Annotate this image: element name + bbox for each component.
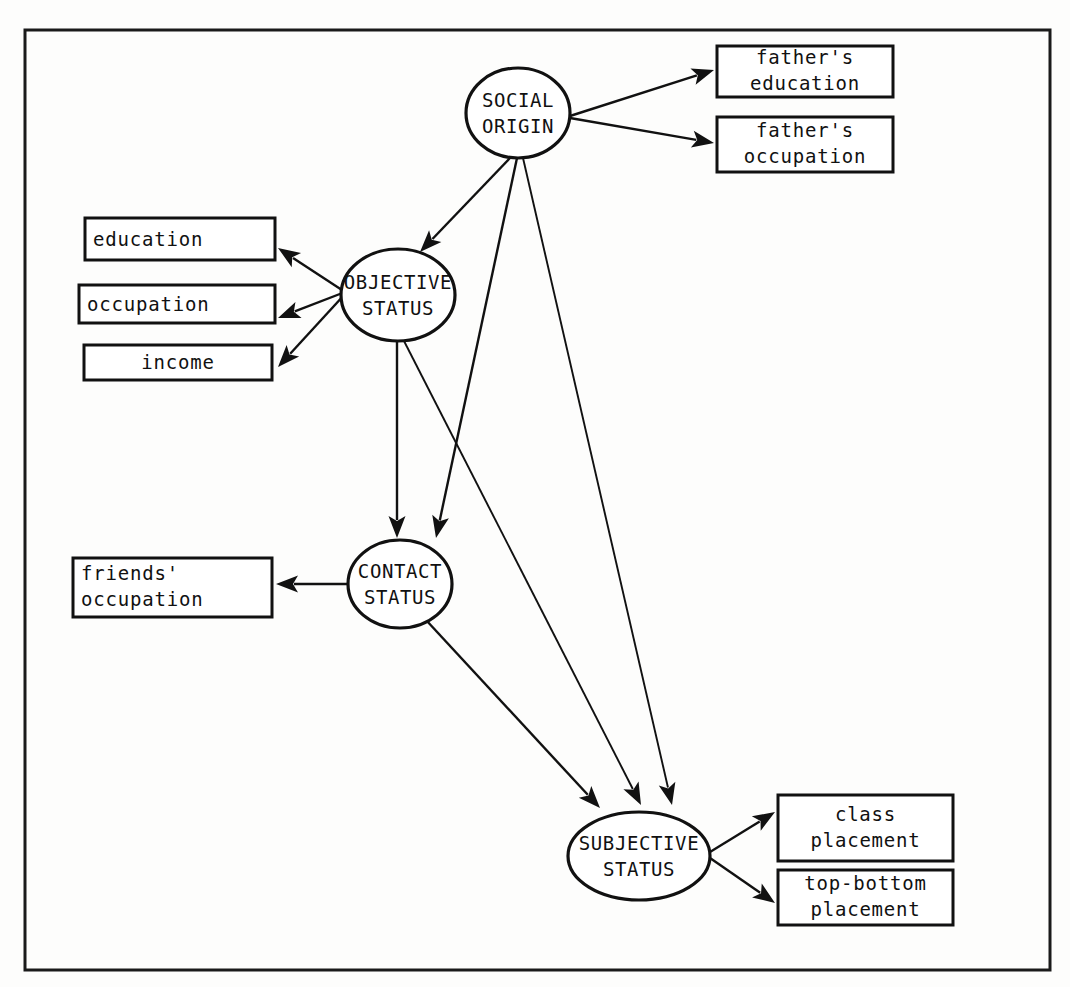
edge-line	[440, 158, 517, 520]
edge-line	[426, 620, 588, 795]
edge-line	[710, 858, 760, 893]
indicator-label-line2: placement	[810, 829, 920, 851]
indicator-fathers-education[interactable]: father'seducation	[717, 46, 893, 97]
indicator-education[interactable]: education	[85, 218, 275, 260]
construct-label-line1: SOCIAL	[482, 89, 554, 111]
edge-line	[432, 158, 510, 239]
construct-ellipse[interactable]	[466, 68, 570, 158]
edge-line	[570, 118, 696, 140]
indicator-friends-occupation[interactable]: friends'occupation	[73, 558, 272, 617]
construct-ellipse[interactable]	[568, 812, 710, 900]
edge-line	[523, 158, 668, 787]
construct-label-line1: CONTACT	[358, 560, 442, 582]
construct-contact-status[interactable]: CONTACTSTATUS	[348, 540, 452, 628]
construct-label-line1: SUBJECTIVE	[579, 832, 699, 854]
edge-social-origin-to-fathers-education	[570, 69, 714, 116]
construct-label-line2: STATUS	[603, 858, 675, 880]
construct-objective-status[interactable]: OBJECTIVESTATUS	[341, 249, 455, 341]
indicator-income[interactable]: income	[84, 345, 272, 380]
indicator-label-line2: occupation	[744, 145, 866, 167]
construct-social-origin[interactable]: SOCIALORIGIN	[466, 68, 570, 158]
construct-subjective-status[interactable]: SUBJECTIVESTATUS	[568, 812, 710, 900]
construct-label-line2: STATUS	[364, 586, 436, 608]
edge-objective-status-to-contact-status	[389, 341, 406, 538]
arrow-head	[752, 812, 775, 831]
indicator-label-line1: friends'	[81, 562, 179, 584]
indicator-label-line2: education	[750, 72, 860, 94]
indicator-label-line1: father's	[756, 46, 854, 68]
indicator-top-bottom-placement[interactable]: top-bottomplacement	[778, 870, 953, 925]
construct-ellipse[interactable]	[348, 540, 452, 628]
arrow-head	[623, 782, 641, 805]
edge-social-origin-to-fathers-occupation	[570, 118, 714, 148]
indicator-label-line1: class	[835, 803, 896, 825]
indicator-fathers-occupation[interactable]: father'soccupation	[717, 117, 893, 172]
edge-line	[710, 821, 760, 852]
indicator-label-line2: occupation	[81, 588, 203, 610]
edge-contact-status-to-friends-occupation	[276, 576, 348, 593]
construct-label-line1: OBJECTIVE	[344, 271, 452, 293]
edge-subjective-status-to-class-placement	[710, 812, 775, 852]
path-diagram-canvas: father'seducationfather'soccupationeduca…	[0, 0, 1070, 987]
edge-subjective-status-to-top-bottom	[710, 858, 775, 903]
edge-line	[570, 75, 697, 116]
arrow-head	[278, 248, 301, 267]
indicator-label-line1: income	[141, 351, 214, 373]
construct-label-line2: STATUS	[362, 297, 434, 319]
construct-ellipse[interactable]	[341, 249, 455, 341]
indicator-label-line1: occupation	[87, 293, 209, 315]
indicator-label-line1: top-bottom	[804, 872, 926, 894]
indicator-class-placement[interactable]: classplacement	[778, 795, 953, 861]
indicator-label-line2: placement	[810, 898, 920, 920]
edges-layer	[276, 69, 775, 903]
indicator-label-line1: education	[93, 228, 203, 250]
indicator-label-line1: father's	[756, 119, 854, 141]
edge-objective-status-to-education	[278, 248, 345, 292]
path-diagram-svg: father'seducationfather'soccupationeduca…	[0, 0, 1070, 987]
edge-line	[293, 258, 345, 292]
edge-social-origin-to-subjective-status	[523, 158, 675, 805]
indicator-occupation[interactable]: occupation	[79, 285, 275, 323]
edge-social-origin-to-objective-status	[420, 158, 510, 252]
arrow-head	[752, 883, 775, 903]
construct-label-line2: ORIGIN	[482, 115, 554, 137]
edge-contact-status-to-subjective-status	[426, 620, 600, 808]
